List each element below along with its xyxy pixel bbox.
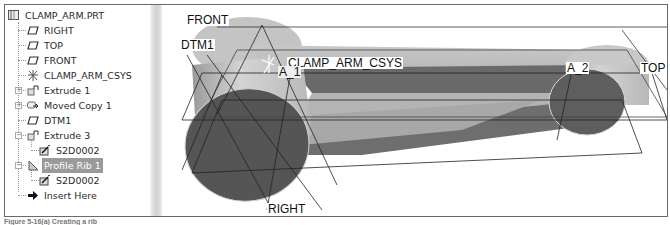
tree-item[interactable]: −Extrude 3 — [5, 128, 150, 143]
tree-connector — [18, 30, 26, 31]
tree-item[interactable]: S2D0002 — [5, 143, 150, 158]
tree-connector — [18, 120, 26, 121]
tree-connector — [18, 45, 26, 46]
sketch-icon — [39, 145, 51, 156]
tree-item[interactable]: FRONT — [5, 53, 150, 68]
extrude-icon — [27, 130, 39, 141]
insert-arrow-icon — [27, 190, 39, 201]
datum-plane-icon — [27, 40, 39, 51]
tree-item[interactable]: Insert Here — [5, 188, 150, 203]
tree-item-label: CLAMP_ARM_CSYS — [42, 68, 134, 83]
tree-item-label: Extrude 3 — [42, 128, 92, 143]
tree-connector — [18, 195, 26, 196]
model-tree[interactable]: CLAMP_ARM.PRT RIGHTTOPFRONTCLAMP_ARM_CSY… — [5, 5, 150, 216]
tree-item[interactable]: CLAMP_ARM_CSYS — [5, 68, 150, 83]
application-frame: CLAMP_ARM.PRT RIGHTTOPFRONTCLAMP_ARM_CSY… — [4, 4, 668, 217]
tree-item-label: S2D0002 — [54, 143, 102, 158]
tree-item-label: FRONT — [42, 53, 78, 68]
pane-splitter[interactable] — [150, 5, 162, 216]
tree-item-label: RIGHT — [42, 23, 76, 38]
datum-plane-icon — [27, 25, 39, 36]
tree-item-label: TOP — [42, 38, 65, 53]
tree-root[interactable]: CLAMP_ARM.PRT — [5, 8, 150, 23]
tree-item[interactable]: +Moved Copy 1 — [5, 98, 150, 113]
tree-connector — [31, 150, 39, 151]
label-csys: CLAMP_ARM_CSYS — [287, 57, 403, 69]
datum-plane-icon — [27, 115, 39, 126]
tree-item-label: S2D0002 — [54, 173, 102, 188]
extrude-icon — [27, 85, 39, 96]
tree-connector — [31, 180, 39, 181]
tree-connector — [18, 60, 26, 61]
collapse-icon[interactable]: − — [15, 162, 22, 169]
tree-connector — [18, 75, 26, 76]
tree-item[interactable]: DTM1 — [5, 113, 150, 128]
tree-item[interactable]: +Extrude 1 — [5, 83, 150, 98]
tree-item-label: Extrude 1 — [42, 83, 92, 98]
graphics-viewport[interactable]: FRONT DTM1 CLAMP_ARM_CSYS A_1 A_2 TOP RI… — [162, 5, 667, 216]
model-view — [162, 5, 667, 216]
tree-item[interactable]: TOP — [5, 38, 150, 53]
label-top: TOP — [640, 62, 666, 74]
datum-plane-icon — [27, 55, 39, 66]
collapse-icon[interactable]: − — [15, 132, 22, 139]
tree-item-label: Insert Here — [42, 188, 99, 203]
tree-item[interactable]: RIGHT — [5, 23, 150, 38]
csys-icon — [27, 70, 39, 81]
label-axis-a2: A_2 — [566, 62, 589, 74]
tree-item[interactable]: −Profile Rib 1 — [5, 158, 150, 173]
label-axis-a1: A_1 — [278, 66, 301, 78]
expand-icon[interactable]: + — [15, 102, 22, 109]
rib-icon — [27, 160, 39, 171]
label-dtm1: DTM1 — [180, 39, 215, 51]
expand-icon[interactable]: + — [15, 87, 22, 94]
tree-item-label: Profile Rib 1 — [42, 158, 103, 173]
sketch-icon — [39, 175, 51, 186]
label-right: RIGHT — [267, 203, 306, 215]
tree-item-label: DTM1 — [42, 113, 73, 128]
tree-item[interactable]: S2D0002 — [5, 173, 150, 188]
tree-root-label: CLAMP_ARM.PRT — [23, 8, 106, 23]
tree-item-label: Moved Copy 1 — [42, 98, 114, 113]
moved-copy-icon — [27, 100, 39, 111]
part-icon — [8, 10, 20, 21]
figure-caption: Figure 5-16(a) Creating a rib — [4, 218, 97, 225]
label-front: FRONT — [186, 14, 229, 26]
